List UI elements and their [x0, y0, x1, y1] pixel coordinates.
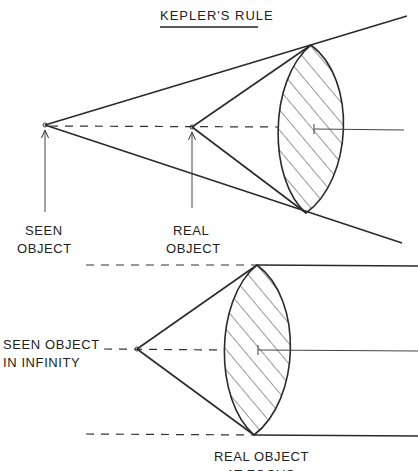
upper-outer-ray-top	[45, 16, 407, 125]
seen-object-label-line1: SEEN	[25, 223, 63, 238]
seen-object-label-line2: OBJECT	[17, 241, 72, 256]
seen-object-infinity-label-line1: SEEN OBJECT	[3, 337, 100, 352]
real-object-label-line2: OBJECT	[166, 241, 221, 256]
lower-parallel-ray-bottom	[254, 435, 418, 436]
diagram-title: KEPLER'S RULE	[160, 8, 274, 23]
lower-parallel-ray-top	[257, 265, 418, 266]
seen-object-infinity-label-line2: IN INFINITY	[3, 355, 80, 370]
title-group: KEPLER'S RULE	[160, 8, 274, 27]
upper-diagram: SEEN OBJECT REAL OBJECT	[17, 16, 407, 256]
real-object-focus-label-line2: AT FOCUS	[226, 467, 295, 471]
lower-diagram: SEEN OBJECT IN INFINITY REAL OBJECT AT F…	[3, 265, 418, 471]
seen-object-arrow	[42, 130, 49, 212]
real-object-focus-label-line1: REAL OBJECT	[214, 449, 309, 464]
keplers-rule-diagram: KEPLER'S RULE SEEN OBJECT REAL	[0, 0, 418, 471]
upper-dashed-axis	[50, 126, 278, 127]
real-object-label-line1: REAL	[173, 223, 209, 238]
real-object-arrow	[189, 132, 196, 208]
lower-dashed-bottom	[86, 434, 254, 435]
lower-dashed-axis	[104, 349, 222, 350]
upper-outer-ray-bottom	[45, 125, 402, 243]
